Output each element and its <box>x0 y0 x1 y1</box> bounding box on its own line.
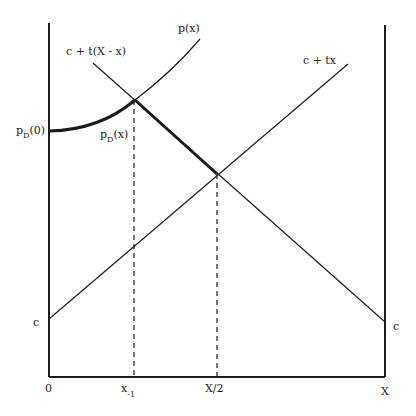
label-pD0: pD(0) <box>16 124 45 140</box>
thick-segment-pD <box>135 100 217 174</box>
line-c-plus-tx <box>49 64 348 319</box>
label-c-left: c <box>33 316 39 329</box>
tick-label-origin: 0 <box>45 382 52 395</box>
label-c-plus-t-X-minus-x: c + t(X - x) <box>66 45 126 58</box>
label-p-x: p(x) <box>178 22 200 35</box>
diagram-canvas: p(x) c + t(X - x) c + tx pD(0) pD(x) c c… <box>0 0 416 416</box>
curve-pD-thick <box>49 100 135 131</box>
tick-label-x-minus-1: x-1 <box>121 382 135 399</box>
label-c-right: c <box>393 320 399 333</box>
curve-p-x <box>135 39 200 100</box>
label-pDx: pD(x) <box>100 128 128 144</box>
tick-label-X: X <box>381 385 389 398</box>
label-c-plus-tx: c + tx <box>303 54 337 67</box>
tick-label-X-half: X/2 <box>205 382 224 395</box>
